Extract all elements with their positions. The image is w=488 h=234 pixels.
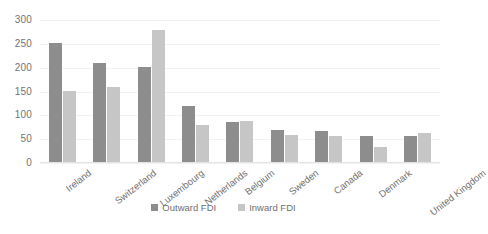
bar[interactable] [404,136,417,163]
bar-group [262,20,306,163]
legend-swatch-icon [238,204,245,211]
legend-item[interactable]: Inward FDI [238,203,295,213]
bar-groups [40,20,440,163]
bar-group [218,20,262,163]
legend-label: Outward FDI [162,203,216,213]
bar[interactable] [329,136,342,163]
bar-group [396,20,440,163]
bar[interactable] [196,125,209,163]
y-axis-tick-label: 300 [15,15,32,25]
x-axis-line [40,162,440,163]
bar[interactable] [93,63,106,163]
bar-group [84,20,128,163]
bar[interactable] [152,30,165,163]
y-axis-tick-label: 0 [26,158,32,168]
bar-group [173,20,217,163]
legend-item[interactable]: Outward FDI [151,203,216,213]
y-axis-tick-label: 250 [15,39,32,49]
y-axis-tick-label: 100 [15,110,32,120]
bar[interactable] [182,106,195,163]
bar[interactable] [49,43,62,163]
chart-legend: Outward FDIInward FDI [0,203,447,213]
bar[interactable] [285,135,298,163]
y-axis-tick-label: 50 [20,134,32,144]
bar[interactable] [360,136,373,163]
y-axis: 050100150200250300 [0,0,36,183]
y-axis-tick-label: 200 [15,63,32,73]
plot-area [40,20,440,163]
bar[interactable] [374,147,387,163]
bar-group [40,20,84,163]
bar[interactable] [226,122,239,163]
legend-swatch-icon [151,204,158,211]
bar[interactable] [107,87,120,163]
bar[interactable] [315,131,328,163]
bar[interactable] [63,91,76,163]
bar-group [307,20,351,163]
bar[interactable] [138,67,151,163]
bar[interactable] [271,130,284,163]
bar-group [351,20,395,163]
legend-label: Inward FDI [249,203,295,213]
bar[interactable] [240,121,253,163]
bar[interactable] [418,133,431,163]
gridline [40,163,440,164]
bar-group [129,20,173,163]
y-axis-tick-label: 150 [15,87,32,97]
